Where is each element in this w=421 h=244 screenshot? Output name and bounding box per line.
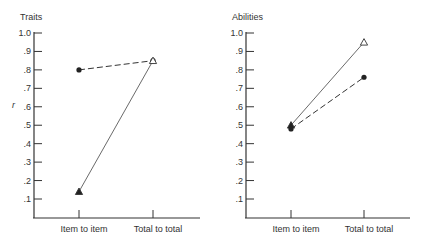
y-tick-label: .2: [235, 176, 243, 186]
y-tick-label: .1: [235, 194, 243, 204]
series-line: [291, 77, 364, 129]
y-tick-label: .8: [235, 65, 243, 75]
x-tick-label: Total to total: [345, 224, 394, 234]
x-tick-label: Item to item: [60, 224, 107, 234]
y-tick-label: .5: [23, 120, 31, 130]
y-tick-label: .9: [23, 46, 31, 56]
y-tick-label: .2: [23, 176, 31, 186]
series-line: [79, 61, 153, 192]
chart-title: Abilities: [232, 12, 264, 22]
y-tick-label: .6: [235, 102, 243, 112]
y-tick-label: .9: [235, 46, 243, 56]
y-tick-label: .8: [23, 65, 31, 75]
marker-triangle: [75, 188, 82, 194]
series-line: [291, 42, 364, 125]
x-tick-label: Total to total: [134, 224, 183, 234]
marker-circle: [76, 67, 81, 72]
marker-triangle: [360, 39, 367, 45]
y-tick-label: 1.0: [230, 28, 243, 38]
chart-abilities: Abilities.1.2.3.4.5.6.7.8.91.0Item to it…: [230, 12, 410, 234]
y-tick-label: .3: [23, 157, 31, 167]
y-axis-label: r: [12, 100, 16, 110]
y-tick-label: .1: [23, 194, 31, 204]
marker-circle: [361, 75, 366, 80]
chart-canvas: Traitsr.1.2.3.4.5.6.7.8.91.0Item to item…: [0, 0, 421, 244]
y-tick-label: .3: [235, 157, 243, 167]
x-tick-label: Item to item: [272, 224, 319, 234]
chart-traits: Traitsr.1.2.3.4.5.6.7.8.91.0Item to item…: [12, 12, 200, 234]
y-tick-label: .5: [235, 120, 243, 130]
y-tick-label: .7: [235, 83, 243, 93]
y-tick-label: 1.0: [18, 28, 31, 38]
chart-title: Traits: [20, 12, 43, 22]
series-line: [79, 61, 153, 70]
y-tick-label: .4: [235, 139, 243, 149]
marker-circle: [288, 126, 293, 131]
y-tick-label: .4: [23, 139, 31, 149]
y-tick-label: .7: [23, 83, 31, 93]
y-tick-label: .6: [23, 102, 31, 112]
